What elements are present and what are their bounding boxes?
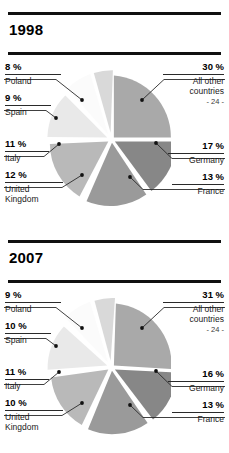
callout-rule [5,151,49,152]
callout-label: France [172,186,224,197]
callout-rule [163,74,224,75]
callout-label-line1: United [5,412,63,423]
section-2007: 2007 [0,228,229,453]
callout-label: Germany [168,155,224,166]
callout-pct: 13 % [172,399,224,410]
callout-count: - 24 - [163,325,224,335]
callout-label: Germany [168,383,224,394]
callout-count: - 24 - [163,97,224,107]
callout-poland-2007: 9 % Poland [5,289,61,314]
callout-pct: 31 % [163,289,224,300]
callout-rule [5,74,61,75]
callout-rule [5,333,51,334]
callout-pct: 8 % [5,61,61,72]
pie-graphic-2007 [47,285,171,451]
callout-pct: 13 % [172,171,224,182]
callout-rule [172,412,224,413]
page-title-1998: 1998 [9,20,43,40]
callout-italy-1998: 11 % Italy [5,138,49,163]
callout-united-kingdom-2007: 10 % United Kingdom [5,397,63,433]
callout-rule [172,184,224,185]
callout-pct: 10 % [5,320,51,331]
callout-spain-2007: 10 % Spain [5,320,51,345]
callout-label-line1: All other [163,76,224,87]
callout-france-2007: 13 % France [172,399,224,424]
callout-germany-1998: 17 % Germany [168,140,224,165]
callout-pct: 30 % [163,61,224,72]
callout-label: Poland [5,76,61,87]
callout-italy-2007: 11 % Italy [5,366,49,391]
callout-rule [168,153,224,154]
infographic-page: 1998 [0,0,229,453]
callout-label-line2: countries [163,314,224,325]
pie-slices-1998 [47,70,171,206]
pie-chart-2007: 9 % Poland 10 % Spain 11 % Italy 10 % Un… [0,283,229,453]
callout-rule [5,379,49,380]
callout-label-line2: Kingdom [5,194,63,205]
callout-pct: 10 % [5,397,63,408]
callout-pct: 11 % [5,366,49,377]
callout-label: Spain [5,335,51,346]
callout-rule [5,182,63,183]
callout-france-1998: 13 % France [172,171,224,196]
callout-united-kingdom-1998: 12 % United Kingdom [5,169,63,205]
section-rule-top [8,240,221,243]
callout-pct: 9 % [5,289,61,300]
callout-label-line1: United [5,184,63,195]
callout-all-other-countries-1998: 30 % All other countries - 24 - [163,61,224,107]
pie-chart-1998: 8 % Poland 9 % Spain 11 % Italy 12 % Uni… [0,55,229,227]
callout-label: Italy [5,153,49,164]
callout-germany-2007: 16 % Germany [168,368,224,393]
callout-pct: 12 % [5,169,63,180]
callout-poland-1998: 8 % Poland [5,61,61,86]
callout-rule [5,105,51,106]
callout-label: Italy [5,381,49,392]
callout-label: France [172,414,224,425]
callout-rule [163,302,224,303]
callout-pct: 9 % [5,92,51,103]
pie-graphic-1998 [47,57,171,223]
callout-pct: 16 % [168,368,224,379]
callout-label-line1: All other [163,304,224,315]
callout-rule [168,381,224,382]
callout-label: Spain [5,107,51,118]
section-1998: 1998 [0,0,229,228]
callout-label: Poland [5,304,61,315]
callout-rule [5,410,63,411]
callout-rule [5,302,61,303]
pie-slices-2007 [48,298,171,434]
callout-pct: 11 % [5,138,49,149]
callout-label-line2: Kingdom [5,422,63,433]
page-title-2007: 2007 [9,248,43,268]
callout-label-line2: countries [163,86,224,97]
callout-all-other-countries-2007: 31 % All other countries - 24 - [163,289,224,335]
callout-pct: 17 % [168,140,224,151]
callout-spain-1998: 9 % Spain [5,92,51,117]
section-rule-top [8,12,221,15]
